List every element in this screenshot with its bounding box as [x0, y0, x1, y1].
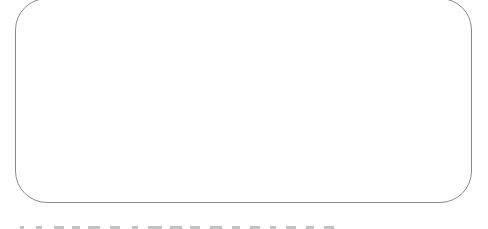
glyph-fragment: [36, 226, 42, 229]
glyph-fragment: [72, 226, 80, 229]
glyph-fragment: [148, 226, 162, 229]
glyph-fragment: [190, 226, 200, 229]
glyph-fragment: [306, 226, 314, 229]
glyph-fragment: [286, 226, 296, 229]
glyph-fragment: [324, 226, 334, 229]
glyph-fragment: [20, 226, 24, 229]
glyph-fragment: [170, 226, 182, 229]
glyph-fragment: [250, 226, 260, 229]
clipped-text-line: [14, 225, 344, 229]
empty-rounded-panel: [15, 0, 472, 203]
glyph-fragment: [110, 226, 120, 229]
screen: [0, 0, 488, 229]
glyph-fragment: [270, 226, 276, 229]
glyph-fragment: [88, 226, 100, 229]
glyph-fragment: [210, 226, 222, 229]
glyph-fragment: [132, 226, 138, 229]
glyph-fragment: [54, 226, 64, 229]
glyph-fragment: [232, 226, 240, 229]
